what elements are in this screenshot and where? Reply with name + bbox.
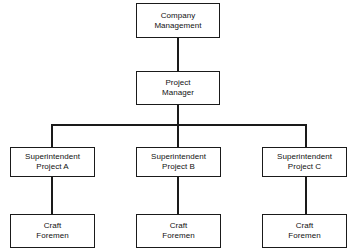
connector-bus-to-superintendent-c bbox=[305, 124, 307, 148]
connector-superintendent-b-to-craft-foremen bbox=[177, 176, 179, 215]
node-craft-foremen-b[interactable]: Craft Foremen bbox=[136, 214, 221, 248]
node-company-management[interactable]: Company Management bbox=[136, 3, 220, 38]
connector-company-to-project-manager bbox=[177, 37, 179, 72]
node-superintendent-project-a-label: Superintendent Project A bbox=[25, 152, 80, 172]
node-craft-foremen-c-label: Craft Foremen bbox=[288, 221, 320, 241]
node-superintendent-project-b-label: Superintendent Project B bbox=[151, 152, 206, 172]
node-craft-foremen-a-label: Craft Foremen bbox=[36, 221, 68, 241]
node-company-management-label: Company Management bbox=[154, 11, 201, 31]
node-superintendent-project-c-label: Superintendent Project C bbox=[277, 152, 332, 172]
node-superintendent-project-b[interactable]: Superintendent Project B bbox=[136, 147, 221, 177]
connector-superintendent-bus bbox=[51, 124, 307, 126]
node-craft-foremen-b-label: Craft Foremen bbox=[162, 221, 194, 241]
connector-superintendent-a-to-craft-foremen bbox=[51, 176, 53, 215]
connector-bus-to-superintendent-a bbox=[51, 124, 53, 148]
node-superintendent-project-a[interactable]: Superintendent Project A bbox=[10, 147, 95, 177]
node-craft-foremen-a[interactable]: Craft Foremen bbox=[10, 214, 95, 248]
connector-project-manager-stem bbox=[177, 104, 179, 126]
node-project-manager-label: Project Manager bbox=[162, 78, 194, 98]
node-craft-foremen-c[interactable]: Craft Foremen bbox=[262, 214, 347, 248]
node-project-manager[interactable]: Project Manager bbox=[136, 71, 220, 105]
connector-superintendent-c-to-craft-foremen bbox=[305, 176, 307, 215]
org-chart-diagram: Company Management Project Manager Super… bbox=[0, 0, 357, 252]
node-superintendent-project-c[interactable]: Superintendent Project C bbox=[262, 147, 347, 177]
connector-bus-to-superintendent-b bbox=[177, 124, 179, 148]
